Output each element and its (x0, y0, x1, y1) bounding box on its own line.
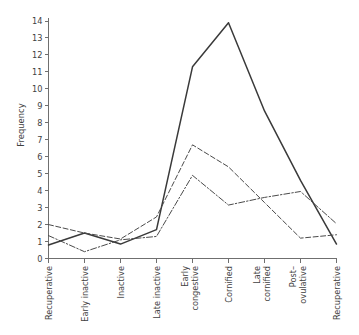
y-tick-label: 1 (37, 237, 42, 247)
y-tick-label: 7 (37, 135, 42, 145)
x-category-label: Late inactive (152, 266, 162, 319)
x-category-label: Late (252, 266, 262, 284)
y-tick-label: 8 (37, 118, 42, 128)
x-category-label: Recuperative (332, 266, 342, 320)
series-line-series-dashed-lower (49, 175, 337, 251)
data-series-group (49, 23, 337, 252)
x-category-label: cornified (262, 266, 272, 302)
y-tick-label: 13 (32, 33, 42, 43)
x-category-label: Early (180, 266, 190, 287)
y-tick-label: 6 (37, 152, 42, 162)
x-category-label: Early inactive (80, 266, 90, 322)
y-tick-label: 4 (37, 186, 42, 196)
x-category-label: congestive (190, 266, 200, 311)
series-line-series-solid (49, 23, 337, 245)
y-tick-label: 2 (37, 220, 42, 230)
x-category-label: Inactive (116, 266, 126, 299)
chart-container: Frequency 01234567891011121314 Recuperat… (0, 0, 359, 335)
x-axis-category-labels: RecuperativeEarly inactiveInactiveLate i… (44, 266, 342, 322)
x-category-label: Post– (288, 266, 298, 287)
y-tick-label: 10 (32, 84, 42, 94)
y-tick-label: 0 (37, 254, 42, 264)
y-axis-title: Frequency (16, 103, 26, 146)
line-chart: Frequency 01234567891011121314 Recuperat… (0, 0, 359, 335)
x-category-label: Recuperative (44, 266, 54, 320)
y-axis-ticks: 01234567891011121314 (32, 16, 48, 264)
y-axis-title-text: Frequency (16, 103, 26, 146)
y-tick-label: 9 (37, 101, 42, 111)
y-tick-label: 11 (32, 67, 42, 77)
y-tick-label: 14 (32, 16, 42, 26)
y-tick-label: 12 (32, 50, 42, 60)
y-tick-label: 5 (37, 169, 42, 179)
series-line-series-dashed-upper (49, 145, 337, 239)
y-tick-label: 3 (37, 203, 42, 213)
x-category-label: ovulative (298, 266, 308, 304)
x-category-label: Cornified (224, 266, 234, 303)
x-axis-ticks (49, 259, 337, 263)
